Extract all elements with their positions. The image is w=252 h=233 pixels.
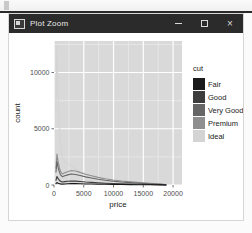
window-titlebar[interactable]: Plot Zoom × (9, 14, 243, 33)
x-axis-title: price (109, 200, 127, 209)
y-tick-label: 10000 (30, 69, 50, 76)
legend-label-good: Good (208, 93, 226, 102)
close-button[interactable]: × (217, 14, 243, 33)
screen: Plot Zoom × 0500010000150002000005000100… (0, 0, 252, 233)
legend-swatch-ideal (193, 130, 205, 142)
frequency-polygon-chart: 050001000015000200000500010000pricecount… (9, 33, 243, 221)
maximize-button[interactable] (191, 14, 217, 33)
x-tick-label: 15000 (134, 190, 154, 197)
plot-panel-background (54, 41, 182, 185)
legend-title: cut (193, 64, 204, 73)
x-tick-label: 10000 (104, 190, 124, 197)
legend-swatch-good (193, 91, 205, 103)
window-icon (14, 19, 25, 29)
y-axis-title: count (13, 102, 22, 122)
minimize-button[interactable] (165, 14, 191, 33)
legend-label-fair: Fair (208, 80, 221, 89)
legend-swatch-premium (193, 117, 205, 129)
x-tick-label: 20000 (163, 190, 183, 197)
legend-swatch-fair (193, 78, 205, 90)
x-tick-label: 0 (52, 190, 56, 197)
desktop-top-strip (0, 0, 252, 11)
desktop-strip-mark (4, 1, 9, 10)
legend-label-ideal: Ideal (208, 132, 225, 141)
legend-label-premium: Premium (208, 119, 238, 128)
legend-swatch-very-good (193, 104, 205, 116)
window-client-area: 050001000015000200000500010000pricecount… (9, 33, 243, 220)
window-title: Plot Zoom (30, 19, 68, 28)
legend-label-very-good: Very Good (208, 106, 243, 115)
x-tick-label: 5000 (76, 190, 92, 197)
plot-canvas: 050001000015000200000500010000pricecount… (9, 33, 243, 220)
y-tick-label: 5000 (34, 125, 50, 132)
y-tick-label: 0 (46, 182, 50, 189)
plot-zoom-window: Plot Zoom × 0500010000150002000005000100… (8, 13, 244, 221)
